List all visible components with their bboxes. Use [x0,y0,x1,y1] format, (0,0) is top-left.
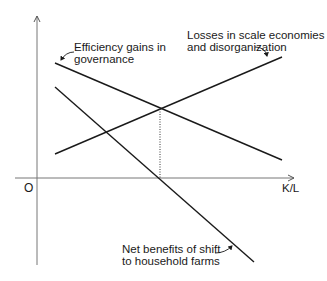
efficiency-label: Efficiency gains in governance [74,41,166,65]
x-axis-label: K/L [282,182,299,194]
scale-losses-line [55,57,282,154]
efficiency-gains-line [55,63,282,160]
net-benefits-label: Net benefits of shift to household farms [122,243,220,267]
origin-label: O [24,182,33,194]
losses-label: Losses in scale economies and disorganiz… [187,29,324,53]
efficiency-callout-arrow [61,52,74,60]
net-benefits-line [55,87,254,262]
